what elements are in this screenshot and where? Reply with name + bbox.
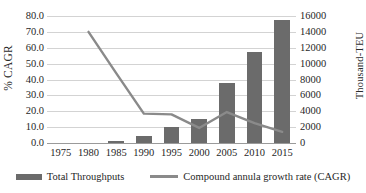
- y-tick-right: 12000: [300, 43, 334, 53]
- legend-label-cagr: Compound annula growth rate (CAGR): [183, 171, 350, 182]
- chart-legend: Total Throughputs Compound annula growth…: [0, 171, 366, 182]
- y-tick-left: 80.0: [0, 11, 44, 21]
- y-tick-left: 60.0: [0, 43, 44, 53]
- cagr-polyline: [89, 32, 283, 132]
- y-tick-right: 6000: [300, 90, 334, 100]
- bar-swatch-icon: [16, 174, 42, 180]
- y-tick-right: 14000: [300, 27, 334, 37]
- y-tick-right: 8000: [300, 75, 334, 85]
- y-tick-right: 4000: [300, 106, 334, 116]
- y-tick-left: 10.0: [0, 122, 44, 132]
- legend-item-cagr[interactable]: Compound annula growth rate (CAGR): [150, 171, 350, 182]
- y-axis-right-ticks: 0200040006000800010000120001400016000: [300, 16, 334, 143]
- y-axis-right-title: Thousand-TEU: [354, 11, 365, 121]
- legend-label-total-throughputs: Total Throughputs: [47, 171, 125, 182]
- y-tick-left: 40.0: [0, 75, 44, 85]
- chart-container: % CAGR Thousand-TEU 0.010.020.030.040.05…: [0, 0, 366, 193]
- y-tick-left: 20.0: [0, 106, 44, 116]
- y-tick-right: 10000: [300, 59, 334, 69]
- y-tick-right: 0: [300, 138, 334, 148]
- y-tick-left: 30.0: [0, 90, 44, 100]
- legend-item-total-throughputs[interactable]: Total Throughputs: [16, 171, 125, 182]
- y-tick-left: 70.0: [0, 27, 44, 37]
- y-axis-left-ticks: 0.010.020.030.040.050.060.070.080.0: [0, 16, 44, 143]
- gridline: [47, 143, 296, 144]
- y-tick-left: 0.0: [0, 138, 44, 148]
- line-series: [47, 16, 296, 143]
- y-tick-right: 16000: [300, 11, 334, 21]
- x-tick-label: 2015: [265, 147, 299, 158]
- plot-area: [47, 16, 296, 143]
- y-tick-left: 50.0: [0, 59, 44, 69]
- y-tick-right: 2000: [300, 122, 334, 132]
- line-swatch-icon: [150, 175, 178, 178]
